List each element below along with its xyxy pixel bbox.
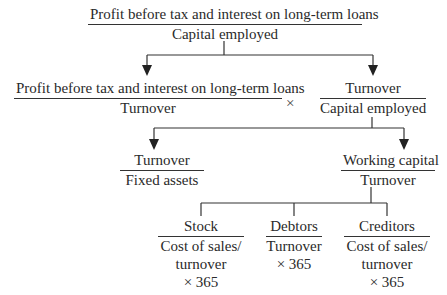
stock-ratio: Stock Cost of sales/ turnover × 365 <box>158 218 244 291</box>
debtors-ratio: Debtors Turnover × 365 <box>266 218 322 273</box>
fixed-asset-turnover-ratio: Turnover Fixed assets <box>120 152 204 189</box>
creditors-numerator: Creditors <box>344 218 430 237</box>
working-capital-ratio: Working capital Turnover <box>341 152 435 189</box>
working-capital-numerator: Working capital <box>341 152 435 171</box>
asset-turnover-numerator: Turnover <box>320 80 426 99</box>
creditors-ratio: Creditors Cost of sales/ turnover × 365 <box>344 218 430 291</box>
working-capital-denominator: Turnover <box>341 171 435 189</box>
creditors-denominator-line-2: turnover <box>344 255 430 273</box>
roce-denominator: Capital employed <box>88 25 362 43</box>
debtors-numerator: Debtors <box>266 218 322 237</box>
profit-margin-numerator: Profit before tax and interest on long-t… <box>14 80 282 99</box>
profit-margin-ratio: Profit before tax and interest on long-t… <box>14 80 282 117</box>
arrow-down-icon <box>149 139 159 150</box>
roce-ratio: Profit before tax and interest on long-t… <box>88 6 362 43</box>
stock-denominator-line-2: turnover <box>158 255 244 273</box>
arrow-down-icon <box>399 139 409 150</box>
arrow-down-icon <box>368 65 378 76</box>
roce-numerator: Profit before tax and interest on long-t… <box>88 6 362 25</box>
arrow-down-icon <box>142 65 152 76</box>
stock-numerator: Stock <box>158 218 244 237</box>
creditors-denominator-line-3: × 365 <box>344 273 430 291</box>
creditors-denominator-line-1: Cost of sales/ <box>344 237 430 255</box>
fixed-asset-numerator: Turnover <box>120 152 204 171</box>
fixed-asset-denominator: Fixed assets <box>120 171 204 189</box>
asset-turnover-denominator: Capital employed <box>320 99 426 117</box>
stock-denominator-line-3: × 365 <box>158 273 244 291</box>
asset-turnover-ratio: Turnover Capital employed <box>320 80 426 117</box>
debtors-denominator-line-1: Turnover <box>266 237 322 255</box>
profit-margin-denominator: Turnover <box>14 99 282 117</box>
stock-denominator-line-1: Cost of sales/ <box>158 237 244 255</box>
debtors-denominator-line-2: × 365 <box>266 255 322 273</box>
multiply-operator: × <box>286 95 294 112</box>
